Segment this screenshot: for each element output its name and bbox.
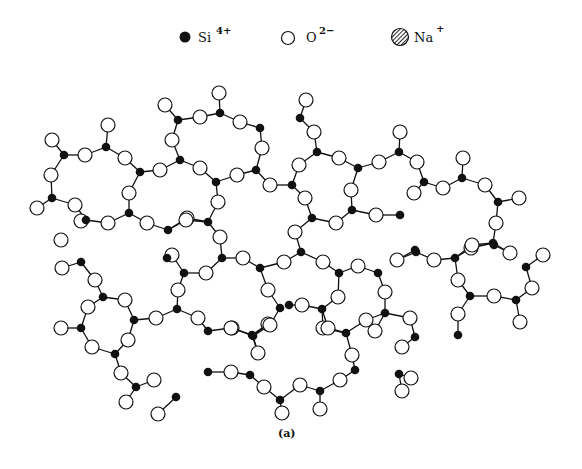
oxygen-atom	[119, 395, 133, 409]
oxygen-atom	[333, 373, 347, 387]
oxygen-atom	[344, 183, 358, 197]
oxygen-atom	[489, 216, 503, 230]
oxygen-atom	[292, 158, 306, 172]
oxygen-atom	[456, 151, 470, 165]
oxygen-atom	[478, 178, 492, 192]
legend: Si 4+ O 2− Na +	[180, 23, 445, 46]
silicon-atom	[125, 209, 134, 218]
oxygen-atom	[410, 155, 424, 169]
oxygen-atom	[451, 273, 465, 287]
oxygen-atom	[298, 191, 312, 205]
oxygen-atom	[512, 191, 526, 205]
silicon-atom	[252, 166, 261, 175]
silicon-atom	[454, 331, 463, 340]
oxygen-atom	[193, 110, 207, 124]
oxygen-atom	[78, 148, 92, 162]
oxygen-atom	[199, 266, 213, 280]
oxygen-atom	[316, 255, 330, 269]
oxygen-atom	[211, 195, 225, 209]
legend-charge-si: 4+	[216, 25, 231, 36]
oxygen-atom	[68, 198, 82, 212]
silicon-atom	[276, 396, 285, 405]
oxygen-atom	[288, 225, 302, 239]
oxygen-atom	[151, 407, 165, 421]
oxygen-atom	[212, 86, 226, 100]
silicon-atom	[494, 198, 503, 207]
oxygen-atom	[465, 238, 479, 252]
glass-network-diagram: Si 4+ O 2− Na + (a)	[0, 0, 582, 469]
oxygen-atom	[88, 273, 102, 287]
silicon-atom	[348, 206, 357, 215]
silicon-atom	[48, 194, 57, 203]
oxygen-atom	[345, 348, 359, 362]
legend-label-na: Na	[414, 30, 433, 45]
oxygen-atom	[359, 313, 373, 327]
legend-label-si: Si	[198, 30, 211, 45]
silicon-atom	[395, 148, 404, 157]
silicon-atom	[276, 304, 285, 313]
oxygen-atom	[153, 163, 167, 177]
legend-item-o: O 2−	[282, 25, 335, 45]
oxygen-atom	[295, 298, 309, 312]
oxygen-atom	[191, 311, 205, 325]
oxygen-atom	[331, 290, 345, 304]
oxygen-atom	[179, 213, 193, 227]
oxygen-atom	[329, 216, 343, 230]
oxygen-atom	[275, 406, 289, 420]
silicon-atom	[102, 143, 111, 152]
oxygen-atom	[513, 315, 527, 329]
silicon-atom	[136, 168, 145, 177]
oxygen-atom	[451, 307, 465, 321]
oxygen-atom	[372, 155, 386, 169]
oxygen-atom	[224, 321, 238, 335]
silicon-atom	[313, 148, 322, 157]
oxygen-atom	[261, 283, 275, 297]
oxygen-atom	[313, 402, 327, 416]
oxygen-atom	[101, 118, 115, 132]
silicon-atom	[395, 370, 404, 379]
oxygen-atom	[165, 133, 179, 147]
silicon-atom	[466, 292, 475, 301]
silicon-atom	[218, 254, 227, 263]
legend-item-na: Na +	[392, 23, 445, 46]
oxygen-atom	[213, 230, 227, 244]
oxygen-atom	[55, 261, 69, 275]
oxygen-atom	[263, 178, 277, 192]
oxygen-atom	[236, 251, 250, 265]
silicon-atom	[342, 329, 351, 338]
oxygen-atom	[45, 133, 59, 147]
silicon-atom	[77, 324, 86, 333]
oxygen-atom	[525, 281, 539, 295]
na-atom-icon	[392, 29, 409, 46]
silicon-atom	[256, 264, 265, 273]
silicon-atom	[173, 305, 182, 314]
silicon-atom	[204, 218, 213, 227]
oxygen-atom	[277, 255, 291, 269]
silicon-atom	[522, 263, 531, 272]
oxygen-atom	[149, 311, 163, 325]
silicon-atom	[285, 301, 294, 310]
silicon-atom	[180, 269, 189, 278]
oxygen-atom	[369, 208, 383, 222]
silicon-atom	[132, 383, 141, 392]
oxygen-atom	[140, 216, 154, 230]
oxygen-atom	[503, 246, 517, 260]
oxygen-atom	[390, 253, 404, 267]
oxygen-atom	[121, 333, 135, 347]
silicon-atom	[451, 254, 460, 263]
legend-label-o: O	[306, 30, 317, 45]
silicon-atom	[489, 239, 498, 248]
oxygen-atom	[393, 125, 407, 139]
silicon-atom	[82, 216, 91, 225]
legend-charge-o: 2−	[319, 25, 334, 36]
oxygen-atom	[233, 115, 247, 129]
oxygen-atom	[407, 186, 421, 200]
silicon-atom	[77, 258, 86, 267]
oxygen-atom	[257, 380, 271, 394]
oxygen-atom	[255, 141, 269, 155]
silicon-atom	[354, 164, 363, 173]
silicon-atom	[288, 181, 297, 190]
silicon-atom	[60, 151, 69, 160]
silicon-atom	[396, 211, 405, 220]
oxygen-atom	[263, 318, 277, 332]
